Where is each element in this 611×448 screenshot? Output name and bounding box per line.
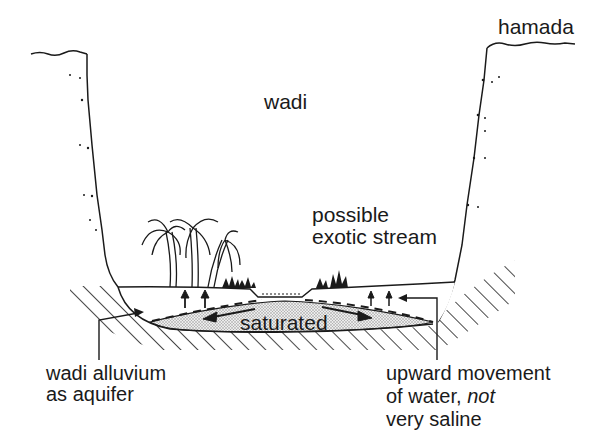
- label-saturated: saturated: [240, 311, 328, 334]
- wadi-wall-right: [438, 48, 487, 322]
- label-hamada: hamada: [498, 15, 574, 38]
- hamada-plateau-left: [31, 51, 87, 56]
- label-upward-line2: of water, not: [386, 385, 496, 407]
- label-upward-line2-italic: not: [467, 385, 496, 407]
- label-stream-line1: possible: [312, 203, 389, 226]
- label-upward-line3: very saline: [386, 408, 482, 430]
- label-wadi: wadi: [263, 90, 307, 113]
- label-stream-line2: exotic stream: [312, 225, 437, 248]
- wall-texture-right: [467, 76, 500, 208]
- label-upward-line1: upward movement: [386, 362, 551, 384]
- shrubs: [222, 270, 348, 288]
- label-alluvium-line2: as aquifer: [46, 383, 134, 405]
- wadi-wall-left: [87, 54, 118, 287]
- wadi-cross-section-diagram: hamada wadi possible exotic stream satur…: [0, 0, 611, 448]
- palm-trees: [142, 219, 240, 287]
- label-upward-line2-a: of water,: [386, 385, 467, 407]
- hamada-plateau-right: [487, 42, 575, 48]
- label-alluvium-line1: wadi alluvium: [45, 362, 166, 384]
